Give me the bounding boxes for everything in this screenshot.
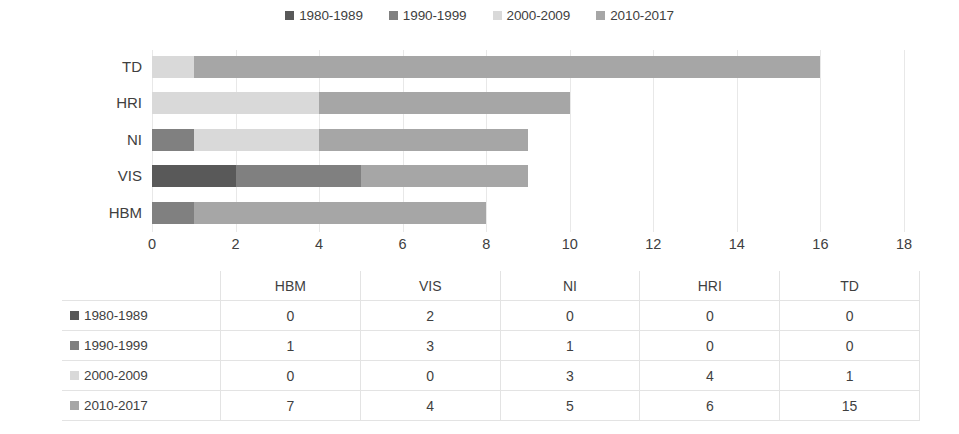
legend-item[interactable]: 1990-1999	[389, 8, 467, 23]
y-axis-label: NI	[0, 131, 142, 149]
table-cell: 6	[640, 391, 780, 421]
bar-segment[interactable]	[152, 92, 319, 114]
table-cell: 0	[780, 301, 920, 331]
legend-swatch-icon	[70, 341, 79, 350]
table-row-label: 1990-1999	[84, 338, 148, 353]
bar-segment[interactable]	[152, 202, 194, 224]
bar-segment[interactable]	[361, 165, 528, 187]
table-row: 1980-198902000	[62, 301, 920, 331]
bar-segment[interactable]	[194, 129, 319, 151]
legend-item-label: 1990-1999	[403, 8, 467, 23]
table-column-header: HBM	[221, 271, 361, 301]
bar-segment[interactable]	[194, 202, 486, 224]
x-axis-tick-label: 12	[633, 236, 673, 252]
y-axis-label: VIS	[0, 167, 142, 185]
table-cell: 4	[640, 361, 780, 391]
x-axis-tick-label: 8	[466, 236, 506, 252]
legend-item[interactable]: 2010-2017	[596, 8, 674, 23]
legend-item-label: 2000-2009	[507, 8, 571, 23]
table-cell: 3	[360, 331, 500, 361]
table-row-header-content: 1990-1999	[62, 338, 220, 353]
table-row: 1990-199913100	[62, 331, 920, 361]
table-cell: 0	[500, 301, 640, 331]
table-column-header: NI	[500, 271, 640, 301]
table-corner-cell	[62, 271, 221, 301]
table-row-header-content: 2010-2017	[62, 398, 220, 413]
table-cell: 2	[360, 301, 500, 331]
bar-group-hri	[152, 92, 904, 114]
table-row-label: 1980-1989	[84, 308, 148, 323]
table-row-header: 1980-1989	[62, 301, 221, 331]
legend-swatch-icon	[389, 11, 398, 20]
bar-group-hbm	[152, 202, 904, 224]
legend-item-label: 2010-2017	[610, 8, 674, 23]
legend-swatch-icon	[70, 401, 79, 410]
bar-group-ni	[152, 129, 904, 151]
stacked-bar-chart: TDHRINIVISHBM 024681012141618	[0, 50, 959, 260]
x-axis-tick-label: 14	[717, 236, 757, 252]
table-row-label: 2010-2017	[84, 398, 148, 413]
table-cell: 3	[500, 361, 640, 391]
x-axis-tick-label: 18	[884, 236, 924, 252]
y-axis-category-labels: TDHRINIVISHBM	[0, 50, 142, 232]
table-cell: 1	[221, 331, 361, 361]
chart-data-table: HBMVISNIHRITD 1980-1989020001990-1999131…	[62, 271, 920, 421]
table-cell: 1	[780, 361, 920, 391]
chart-legend: 1980-19891990-19992000-20092010-2017	[0, 8, 959, 23]
legend-swatch-icon	[70, 371, 79, 380]
table-row-header: 2010-2017	[62, 391, 221, 421]
table-body: 1980-1989020001990-1999131002000-2009003…	[62, 301, 920, 421]
plot-area	[152, 50, 904, 232]
table-cell: 0	[640, 301, 780, 331]
legend-swatch-icon	[493, 11, 502, 20]
table-column-header: TD	[780, 271, 920, 301]
table-cell: 0	[360, 361, 500, 391]
bar-group-td	[152, 56, 904, 78]
x-axis-tick-label: 10	[550, 236, 590, 252]
y-axis-label: HRI	[0, 94, 142, 112]
x-axis-tick-label: 16	[800, 236, 840, 252]
x-axis-tick-label: 2	[216, 236, 256, 252]
table-cell: 7	[221, 391, 361, 421]
table-row-header-content: 1980-1989	[62, 308, 220, 323]
bar-group-vis	[152, 165, 904, 187]
table-header-row: HBMVISNIHRITD	[62, 271, 920, 301]
x-axis-tick-label: 4	[299, 236, 339, 252]
table-cell: 0	[640, 331, 780, 361]
legend-item[interactable]: 1980-1989	[285, 8, 363, 23]
legend-swatch-icon	[285, 11, 294, 20]
legend-item-label: 1980-1989	[299, 8, 363, 23]
table-row-label: 2000-2009	[84, 368, 148, 383]
bar-segment[interactable]	[319, 129, 528, 151]
table-cell: 0	[221, 301, 361, 331]
bar-segment[interactable]	[236, 165, 361, 187]
table-cell: 0	[780, 331, 920, 361]
x-axis-tick-label: 6	[383, 236, 423, 252]
x-axis-tick-label: 0	[132, 236, 172, 252]
legend-swatch-icon	[70, 311, 79, 320]
bar-segment[interactable]	[194, 56, 821, 78]
table-cell: 15	[780, 391, 920, 421]
table-cell: 1	[500, 331, 640, 361]
table-row: 2000-200900341	[62, 361, 920, 391]
table-row: 2010-2017745615	[62, 391, 920, 421]
table-column-header: VIS	[360, 271, 500, 301]
table-cell: 0	[221, 361, 361, 391]
table-row-header-content: 2000-2009	[62, 368, 220, 383]
table-column-header: HRI	[640, 271, 780, 301]
bar-segment[interactable]	[152, 56, 194, 78]
y-axis-label: TD	[0, 58, 142, 76]
legend-item[interactable]: 2000-2009	[493, 8, 571, 23]
y-axis-label: HBM	[0, 204, 142, 222]
table-row-header: 2000-2009	[62, 361, 221, 391]
legend-swatch-icon	[596, 11, 605, 20]
table-row-header: 1990-1999	[62, 331, 221, 361]
bar-segment[interactable]	[319, 92, 570, 114]
table-cell: 5	[500, 391, 640, 421]
gridline	[904, 50, 905, 232]
bar-segment[interactable]	[152, 165, 236, 187]
bar-segment[interactable]	[152, 129, 194, 151]
table-cell: 4	[360, 391, 500, 421]
x-axis-tick-labels: 024681012141618	[152, 232, 904, 258]
